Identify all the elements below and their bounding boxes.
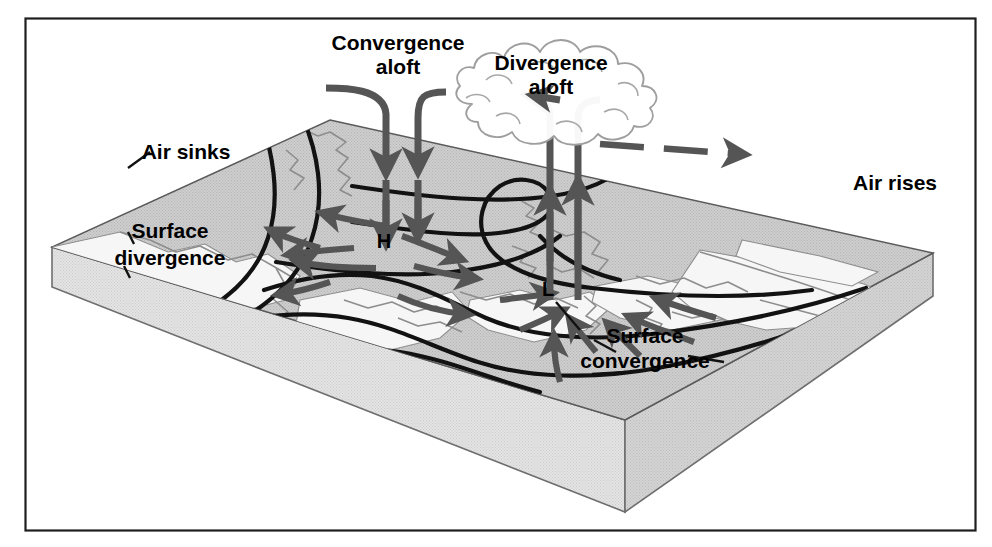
label-divergence-aloft-line1: Divergence	[494, 51, 607, 74]
label-surface-divergence-line2: divergence	[115, 246, 226, 269]
figure-root: H L Convergence aloft Divergence aloft A…	[0, 0, 992, 547]
label-divergence-aloft-line2: aloft	[529, 75, 573, 98]
label-surface-convergence-line1: Surface	[606, 324, 683, 347]
diagram-canvas: H L Convergence aloft Divergence aloft A…	[0, 0, 992, 547]
label-surface-divergence-line1: Surface	[131, 219, 208, 242]
label-convergence-aloft-line2: aloft	[376, 55, 420, 78]
label-convergence-aloft-line1: Convergence	[331, 31, 464, 54]
high-pressure-label: H	[377, 230, 391, 252]
label-air-rises: Air rises	[853, 171, 937, 194]
low-pressure-label: L	[542, 278, 554, 300]
label-air-sinks: Air sinks	[142, 140, 231, 163]
label-surface-convergence-line2: convergence	[580, 349, 710, 372]
